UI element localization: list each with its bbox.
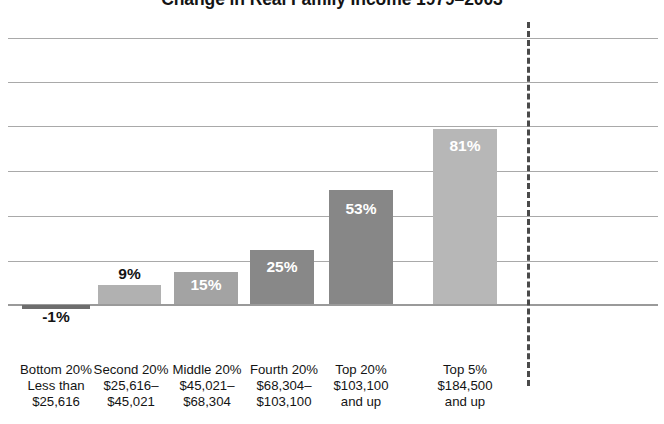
bar-value-label-middle-20: 15% [174, 276, 238, 294]
chart-container: Change in Real Family Income 1979–2003 -… [0, 0, 664, 424]
gridline [8, 82, 658, 83]
bar-value-label-fourth-20: 25% [250, 258, 314, 276]
category-axis: Bottom 20% Less than $25,616 Second 20% … [0, 360, 664, 424]
category-sublabel-2: and up [413, 394, 517, 410]
gridline [8, 126, 658, 127]
category-sublabel-2: and up [309, 394, 413, 410]
bar-top-5[interactable] [433, 129, 497, 304]
gridline [8, 38, 658, 39]
category-label-top-20: Top 20% $103,100 and up [309, 362, 413, 411]
bar-value-label-bottom-20: -1% [28, 308, 84, 326]
category-sublabel-1: $184,500 [413, 378, 517, 394]
plot-area: -1% 9% 15% 25% 53% 81% [0, 0, 664, 358]
bar-value-label-top-20: 53% [329, 200, 393, 218]
axis-baseline [8, 304, 658, 306]
category-sublabel-1: $103,100 [309, 378, 413, 394]
category-name: Top 5% [413, 362, 517, 378]
top5-divider-line [527, 22, 530, 386]
bar-value-label-top-5: 81% [433, 137, 497, 155]
category-name: Top 20% [309, 362, 413, 378]
category-label-top-5: Top 5% $184,500 and up [413, 362, 517, 411]
bar-value-label-second-20: 9% [101, 265, 158, 283]
bar-second-20[interactable] [98, 285, 161, 304]
gridline [8, 171, 658, 172]
